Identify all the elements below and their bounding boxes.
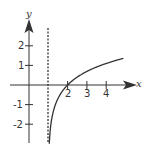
x-axis-label: x [136, 79, 142, 89]
x-tick-label-4: 4 [103, 89, 109, 99]
y-tick-label-neg1: -1 [13, 100, 23, 110]
y-tick-label-neg2: -2 [13, 120, 23, 130]
x-tick-label-3: 3 [84, 89, 90, 99]
x-tick-label-2: 2 [65, 89, 71, 99]
y-axis-label: y [26, 9, 32, 19]
function-curve [49, 58, 123, 143]
y-tick-label-1: 1 [18, 61, 24, 71]
y-tick-label-2: 2 [18, 41, 24, 51]
